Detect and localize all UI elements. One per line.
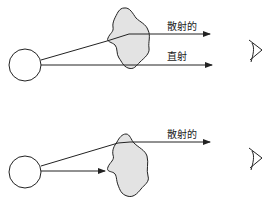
scattering-diagram: 散射的 直射 散射的 <box>0 0 270 203</box>
particle-blob <box>108 134 149 197</box>
scattered-label: 散射的 <box>167 20 197 32</box>
particle-blob <box>108 8 150 69</box>
scattered-label: 散射的 <box>167 128 197 140</box>
bottom-panel: 散射的 <box>9 128 262 197</box>
eye-icon <box>249 148 262 170</box>
light-source-circle <box>9 49 41 81</box>
top-panel: 散射的 直射 <box>9 8 262 81</box>
eye-icon <box>249 40 262 62</box>
direct-label: 直射 <box>167 50 187 62</box>
light-source-circle <box>9 156 41 188</box>
